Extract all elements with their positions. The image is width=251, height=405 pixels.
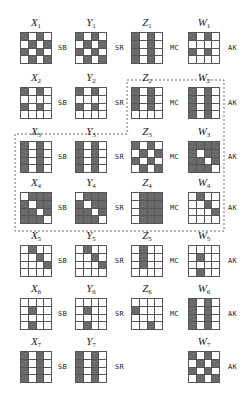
inactive-cell (155, 49, 162, 56)
inactive-cell (140, 142, 147, 149)
inactive-cell (189, 360, 196, 367)
active-cell (197, 375, 204, 382)
state-label-z5: Z5 (127, 229, 167, 245)
active-cell (205, 368, 212, 375)
active-cell (155, 209, 162, 216)
inactive-cell (205, 246, 212, 253)
active-cell (84, 56, 91, 63)
active-cell (29, 209, 36, 216)
active-cell (29, 41, 36, 48)
active-cell (92, 216, 99, 223)
inactive-cell (205, 269, 212, 276)
inactive-cell (197, 262, 204, 269)
inactive-cell (197, 322, 204, 329)
inactive-cell (29, 352, 36, 359)
state-label-y1: Y1 (71, 16, 111, 32)
active-cell (212, 142, 219, 149)
active-cell (155, 165, 162, 172)
active-cell (140, 216, 147, 223)
inactive-cell (132, 262, 139, 269)
operation-label-ak: AK (228, 44, 237, 52)
inactive-cell (44, 299, 51, 306)
inactive-cell (29, 299, 36, 306)
inactive-cell (212, 269, 219, 276)
active-cell (212, 209, 219, 216)
inactive-cell (205, 360, 212, 367)
inactive-cell (84, 111, 91, 118)
inactive-cell (92, 262, 99, 269)
inactive-cell (84, 201, 91, 208)
active-cell (37, 88, 44, 95)
inactive-cell (44, 88, 51, 95)
inactive-cell (37, 299, 44, 306)
active-cell (132, 96, 139, 103)
inactive-cell (197, 315, 204, 322)
active-cell (148, 216, 155, 223)
inactive-cell (148, 315, 155, 322)
state-grid-x3 (20, 141, 52, 173)
inactive-cell (44, 246, 51, 253)
inactive-cell (84, 262, 91, 269)
active-cell (29, 246, 36, 253)
active-cell (132, 88, 139, 95)
inactive-cell (44, 158, 51, 165)
inactive-cell (84, 254, 91, 261)
active-cell (29, 307, 36, 314)
inactive-cell (197, 41, 204, 48)
active-cell (197, 158, 204, 165)
active-cell (37, 158, 44, 165)
inactive-cell (205, 262, 212, 269)
inactive-cell (140, 307, 147, 314)
inactive-cell (212, 41, 219, 48)
inactive-cell (155, 96, 162, 103)
active-cell (189, 33, 196, 40)
active-cell (132, 158, 139, 165)
active-cell (148, 142, 155, 149)
active-cell (132, 33, 139, 40)
inactive-cell (189, 209, 196, 216)
inactive-cell (29, 96, 36, 103)
inactive-cell (92, 209, 99, 216)
inactive-cell (99, 165, 106, 172)
active-cell (155, 201, 162, 208)
active-cell (92, 150, 99, 157)
operation-label-ak: AK (228, 153, 237, 161)
operation-label-sr: SR (115, 44, 124, 52)
inactive-cell (148, 246, 155, 253)
active-cell (189, 165, 196, 172)
state-grid-z2 (131, 87, 163, 119)
state-grid-x5 (20, 245, 52, 277)
active-cell (99, 41, 106, 48)
inactive-cell (21, 246, 28, 253)
active-cell (44, 209, 51, 216)
inactive-cell (155, 104, 162, 111)
state-grid-w5 (188, 245, 220, 277)
active-cell (205, 165, 212, 172)
operation-label-sr: SR (115, 363, 124, 371)
inactive-cell (148, 269, 155, 276)
inactive-cell (21, 96, 28, 103)
inactive-cell (37, 315, 44, 322)
active-cell (205, 315, 212, 322)
inactive-cell (205, 209, 212, 216)
active-cell (21, 158, 28, 165)
inactive-cell (197, 246, 204, 253)
state-label-z4: Z4 (127, 176, 167, 192)
inactive-cell (197, 216, 204, 223)
operation-label-mc: MC (170, 99, 179, 107)
active-cell (21, 165, 28, 172)
active-cell (205, 201, 212, 208)
active-cell (76, 158, 83, 165)
inactive-cell (197, 96, 204, 103)
active-cell (132, 49, 139, 56)
active-cell (205, 142, 212, 149)
inactive-cell (189, 216, 196, 223)
state-grid-y4 (75, 192, 107, 224)
active-cell (140, 262, 147, 269)
inactive-cell (37, 111, 44, 118)
inactive-cell (155, 254, 162, 261)
state-label-x5: X5 (16, 229, 56, 245)
operation-label-mc: MC (170, 257, 179, 265)
inactive-cell (212, 216, 219, 223)
active-cell (37, 360, 44, 367)
